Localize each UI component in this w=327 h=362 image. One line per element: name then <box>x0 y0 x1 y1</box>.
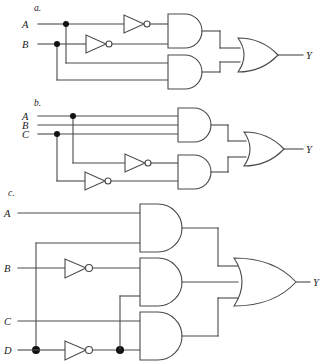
circuit-svg: a. A B Y <box>0 0 327 362</box>
and-gate-c-bottom <box>140 312 182 360</box>
output-label-b-Y: Y <box>306 144 313 155</box>
not-gate-b2 <box>85 172 105 190</box>
or-gate-c <box>234 258 296 306</box>
input-label-a-B: B <box>22 39 29 50</box>
junction-dot-b2 <box>54 131 60 137</box>
input-label-c-B: B <box>4 263 11 274</box>
input-label-b-C: C <box>22 129 30 140</box>
logic-circuit-figure: a. A B Y <box>0 0 327 362</box>
not-gate-c2 <box>65 341 86 360</box>
section-label-b: b. <box>34 98 41 108</box>
output-label-a-Y: Y <box>306 50 313 61</box>
not-bubble-b2 <box>105 178 111 184</box>
not-gate-b1 <box>125 154 145 172</box>
section-c-group: c. A B C D Y <box>3 188 320 360</box>
input-label-c-C: C <box>4 316 12 327</box>
and-gate-a-top <box>168 14 202 48</box>
and-gate-b-top <box>178 108 211 142</box>
junction-dot-b1 <box>70 113 76 119</box>
section-label-a: a. <box>34 3 41 13</box>
input-label-a-A: A <box>21 19 29 30</box>
not-gate-a1 <box>124 15 144 33</box>
or-gate-b <box>244 132 284 166</box>
section-a-group: a. A B Y <box>21 3 313 89</box>
not-gate-c1 <box>65 259 86 278</box>
input-label-c-A: A <box>3 208 11 219</box>
not-bubble-a1 <box>144 21 150 27</box>
section-label-c: c. <box>8 188 15 198</box>
or-gate-a <box>238 38 278 72</box>
not-bubble-b1 <box>145 160 151 166</box>
and-gate-c-top <box>140 204 182 252</box>
and-gate-a-bottom <box>168 55 202 89</box>
output-label-c-Y: Y <box>313 277 320 288</box>
not-bubble-a2 <box>106 41 112 47</box>
not-bubble-c1 <box>86 265 93 272</box>
not-bubble-c2 <box>86 347 93 354</box>
not-gate-a2 <box>86 35 106 53</box>
junction-dot-a1 <box>63 21 69 27</box>
junction-dot-a2 <box>54 41 60 47</box>
and-gate-b-bottom <box>178 155 211 189</box>
section-b-group: b. A B C Y <box>21 98 313 190</box>
input-label-c-D: D <box>3 345 12 356</box>
and-gate-c-mid <box>140 258 182 306</box>
